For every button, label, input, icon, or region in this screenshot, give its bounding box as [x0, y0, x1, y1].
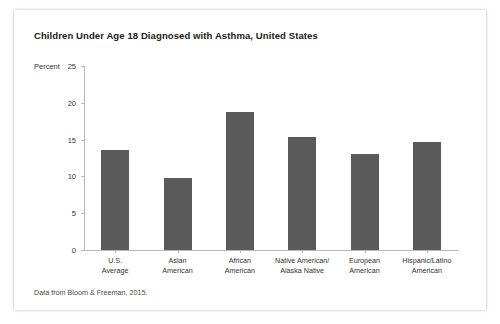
bar [288, 137, 316, 250]
x-tick-mark [240, 250, 241, 253]
bar [164, 178, 192, 250]
y-tick-label: 0 [50, 246, 76, 255]
y-tick-label: 10 [50, 172, 76, 181]
x-tick-mark [427, 250, 428, 253]
y-tick-label: 20 [50, 98, 76, 107]
x-tick-mark [178, 250, 179, 253]
x-tick-mark [365, 250, 366, 253]
x-tick-label-line: Hispanic/Latino [389, 256, 465, 266]
x-tick-label: Hispanic/LatinoAmerican [389, 256, 465, 275]
x-tick-label-line: American [389, 266, 465, 276]
x-tick-mark [302, 250, 303, 253]
y-tick-label: 15 [50, 135, 76, 144]
bar [226, 112, 254, 250]
plot-area [84, 66, 458, 250]
figure-card: Children Under Age 18 Diagnosed with Ast… [14, 10, 486, 310]
y-tick-label: 25 [50, 62, 76, 71]
x-axis-line [84, 250, 459, 251]
x-tick-mark [115, 250, 116, 253]
source-note: Data from Bloom & Freeman, 2015. [34, 288, 147, 297]
bar [413, 142, 441, 250]
y-tick-label: 5 [50, 209, 76, 218]
bar [101, 150, 129, 250]
y-tick-mark [81, 250, 84, 251]
chart-title: Children Under Age 18 Diagnosed with Ast… [34, 30, 318, 41]
bar [351, 154, 379, 250]
